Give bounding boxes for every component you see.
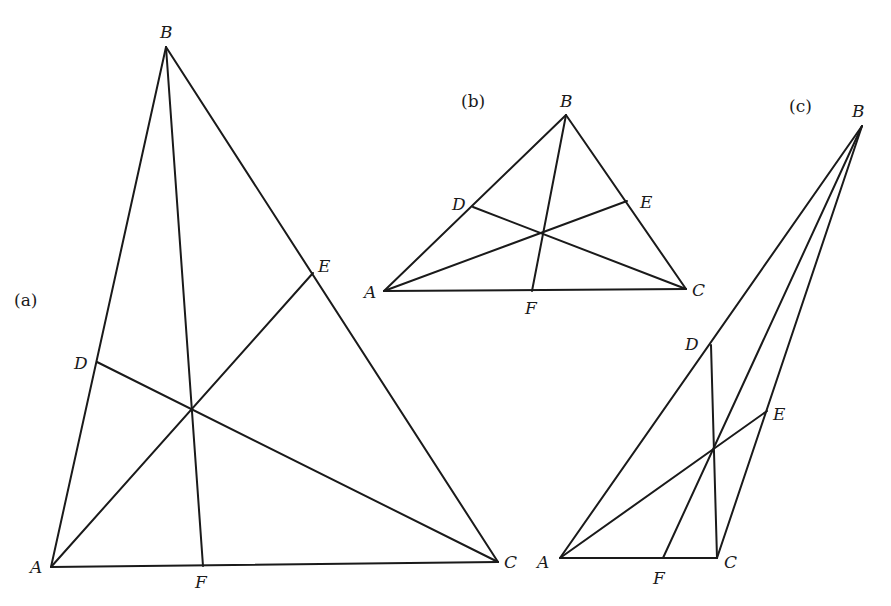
side-BC xyxy=(166,47,498,562)
cevian-BF xyxy=(532,115,566,291)
concurrent-cevians-figure: ABCDEF(a) ABCDEF(b) ABCDEF(c) xyxy=(0,0,891,606)
figure-tag: (c) xyxy=(789,96,812,116)
point-label-C: C xyxy=(724,552,737,572)
point-label-B: B xyxy=(159,22,173,42)
point-label-F: F xyxy=(524,298,538,318)
point-label-D: D xyxy=(451,194,466,214)
point-label-A: A xyxy=(28,557,42,577)
side-AB xyxy=(560,126,862,558)
side-CA xyxy=(51,562,498,567)
triangle-c: ABCDEF(c) xyxy=(535,96,865,588)
side-BC xyxy=(717,126,862,558)
point-label-C: C xyxy=(692,280,705,300)
triangle-a: ABCDEF(a) xyxy=(14,22,517,592)
point-label-B: B xyxy=(559,91,573,111)
point-label-F: F xyxy=(194,572,208,592)
triangle-b: ABCDEF(b) xyxy=(362,91,705,318)
cevian-BF xyxy=(166,47,203,566)
side-CA xyxy=(384,289,686,291)
point-label-E: E xyxy=(772,404,786,424)
point-label-A: A xyxy=(362,282,376,302)
figure-tag: (b) xyxy=(461,91,485,111)
cevian-AE xyxy=(560,411,767,558)
point-label-C: C xyxy=(504,552,517,572)
point-label-E: E xyxy=(317,256,331,276)
cevian-CD xyxy=(97,362,498,562)
point-label-D: D xyxy=(684,334,699,354)
point-label-D: D xyxy=(73,353,88,373)
side-AB xyxy=(51,47,166,567)
diagram-canvas: ABCDEF(a) ABCDEF(b) ABCDEF(c) xyxy=(0,0,891,606)
point-label-E: E xyxy=(639,192,653,212)
cevian-AE xyxy=(384,201,627,291)
side-AB xyxy=(384,115,566,291)
point-label-A: A xyxy=(535,552,549,572)
point-label-F: F xyxy=(652,568,666,588)
cevian-AE xyxy=(51,273,313,567)
figure-tag: (a) xyxy=(14,290,37,310)
point-label-B: B xyxy=(851,101,865,121)
